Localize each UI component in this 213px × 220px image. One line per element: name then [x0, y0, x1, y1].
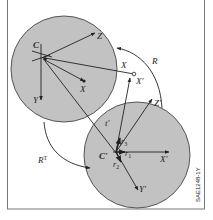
point-x-dot [82, 79, 85, 82]
rotation-transpose-arc [44, 122, 90, 168]
frame-a-origin-label: C [33, 40, 40, 50]
rotation-label: R [151, 56, 158, 66]
frame-b-origin-label: C' [99, 151, 108, 161]
frame-b-z-label: Z' [154, 98, 162, 108]
shared-point-prime-label: X' [135, 76, 144, 86]
diagram-canvas: C Z Y X X X' R RT C' X' Y' Z' t' r1 r2 r… [0, 0, 213, 220]
figure-code: SAE1248-1Y [195, 167, 201, 202]
rotation-transpose-label: RT [37, 155, 48, 165]
frame-b-x-label: X' [159, 154, 168, 164]
frame-a-origin-dot [43, 57, 47, 61]
frame-a-point-label: X [79, 84, 86, 94]
shared-point-label: X [120, 60, 127, 70]
frame-b-y-label: Y' [139, 184, 147, 194]
